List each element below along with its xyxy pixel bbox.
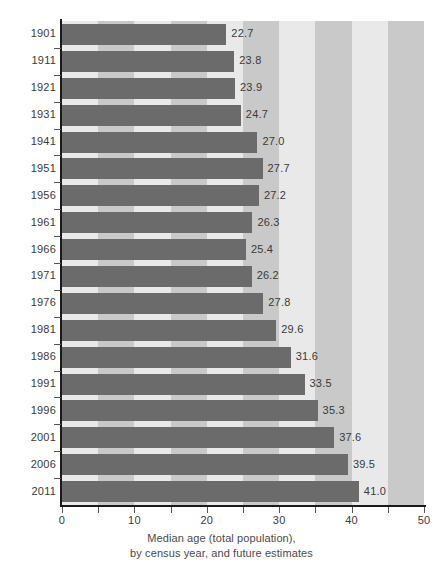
- y-axis-tick-label-text: 1961: [4, 216, 56, 228]
- y-axis-tick: [54, 371, 61, 372]
- y-axis-tick-label-text: 1956: [4, 189, 56, 201]
- y-axis-tick: [54, 451, 61, 452]
- y-axis-tick-label-text: 2001: [4, 431, 56, 443]
- x-axis-tick-label: 0: [47, 514, 77, 526]
- bar-value-label: 22.7: [231, 27, 253, 39]
- bar: [62, 132, 257, 153]
- bar-row: [62, 427, 424, 448]
- bar: [62, 347, 291, 368]
- chart-caption: Median age (total population), by census…: [0, 531, 443, 561]
- y-axis-tick: [54, 155, 61, 156]
- bar: [62, 454, 348, 475]
- bar-value-label: 27.8: [268, 296, 290, 308]
- bar-row: [62, 239, 424, 260]
- bar-row: [62, 266, 424, 287]
- bar-row: [62, 158, 424, 179]
- median-age-bar-chart: 1901191119211931194119511956196119661971…: [0, 0, 443, 579]
- y-axis-tick-label-text: 1921: [4, 81, 56, 93]
- bar-row: [62, 293, 424, 314]
- bar: [62, 24, 226, 45]
- bar: [62, 158, 263, 179]
- bar-value-label: 23.8: [239, 54, 261, 66]
- x-axis-tick: [171, 507, 172, 513]
- bar: [62, 481, 359, 502]
- bar: [62, 78, 235, 99]
- bar: [62, 293, 263, 314]
- x-axis-tick: [315, 507, 316, 513]
- bar: [62, 239, 246, 260]
- y-axis-tick: [54, 182, 61, 183]
- caption-line-2: by census year, and future estimates: [0, 546, 443, 561]
- bar-row: [62, 132, 424, 153]
- y-axis-tick-label-text: 1971: [4, 269, 56, 281]
- y-axis-tick: [54, 344, 61, 345]
- bar-value-label: 27.2: [264, 189, 286, 201]
- bar: [62, 427, 334, 448]
- x-axis-tick: [388, 507, 389, 513]
- bar-row: [62, 400, 424, 421]
- x-axis-tick-label: 30: [264, 514, 294, 526]
- x-axis-tick-label: 50: [409, 514, 439, 526]
- bar: [62, 374, 305, 395]
- bar: [62, 400, 318, 421]
- x-axis-tick-label: 20: [192, 514, 222, 526]
- y-axis-tick: [54, 236, 61, 237]
- bar-value-label: 24.7: [246, 108, 268, 120]
- y-axis-tick: [54, 317, 61, 318]
- bar-row: [62, 320, 424, 341]
- bar-value-label: 27.0: [262, 135, 284, 147]
- y-axis-tick: [54, 424, 61, 425]
- x-axis-tick: [134, 507, 135, 513]
- bar: [62, 320, 276, 341]
- y-axis-tick: [54, 397, 61, 398]
- bar-value-label: 25.4: [251, 243, 273, 255]
- bar-value-label: 41.0: [364, 485, 386, 497]
- y-axis-tick: [54, 263, 61, 264]
- bar-value-label: 33.5: [310, 377, 332, 389]
- bar: [62, 185, 259, 206]
- y-axis-tick-label-text: 1981: [4, 323, 56, 335]
- y-axis-tick-label-text: 1951: [4, 162, 56, 174]
- bar-value-label: 37.6: [339, 431, 361, 443]
- y-axis-tick-label-text: 1911: [4, 54, 56, 66]
- y-axis-tick-label-text: 1996: [4, 404, 56, 416]
- y-axis-tick: [54, 75, 61, 76]
- bar-value-label: 26.2: [257, 269, 279, 281]
- plot-area: [62, 21, 424, 505]
- bar-value-label: 29.6: [281, 323, 303, 335]
- bar-value-label: 23.9: [240, 81, 262, 93]
- x-axis-tick-label: 40: [337, 514, 367, 526]
- y-axis-tick: [54, 478, 61, 479]
- y-axis-tick-label-text: 1991: [4, 377, 56, 389]
- y-axis-tick: [54, 209, 61, 210]
- x-axis-tick-label: 10: [119, 514, 149, 526]
- bar-row: [62, 212, 424, 233]
- bar-value-label: 27.7: [268, 162, 290, 174]
- x-axis-tick: [352, 507, 353, 513]
- y-axis-tick-label-text: 2006: [4, 458, 56, 470]
- x-axis-tick: [207, 507, 208, 513]
- x-axis-tick: [98, 507, 99, 513]
- bar: [62, 51, 234, 72]
- y-axis-tick-label-text: 1976: [4, 296, 56, 308]
- bar: [62, 105, 241, 126]
- bars-layer: [62, 21, 424, 505]
- bar-value-label: 39.5: [353, 458, 375, 470]
- y-axis-tick: [54, 48, 61, 49]
- bar-value-label: 26.3: [257, 216, 279, 228]
- y-axis-tick-label-text: 1941: [4, 135, 56, 147]
- y-axis-tick-label-text: 1931: [4, 108, 56, 120]
- y-axis-tick-label-text: 1901: [4, 27, 56, 39]
- bar: [62, 266, 252, 287]
- y-axis-tick-label-text: 1986: [4, 350, 56, 362]
- caption-line-1: Median age (total population),: [0, 531, 443, 546]
- y-axis-tick: [54, 102, 61, 103]
- bar: [62, 212, 252, 233]
- x-axis-tick: [279, 507, 280, 513]
- y-axis-tick: [54, 129, 61, 130]
- bar-row: [62, 347, 424, 368]
- bar-value-label: 31.6: [296, 350, 318, 362]
- x-axis-tick: [424, 507, 425, 513]
- bar-row: [62, 374, 424, 395]
- y-axis-tick: [54, 290, 61, 291]
